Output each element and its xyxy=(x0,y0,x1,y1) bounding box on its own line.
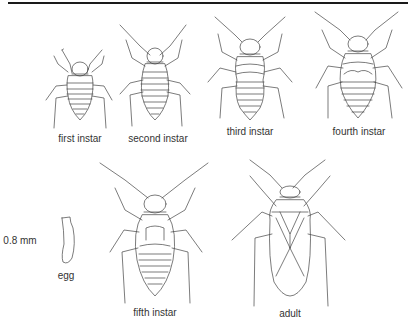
adult-label: adult xyxy=(279,308,301,319)
adult-drawing xyxy=(0,0,411,323)
